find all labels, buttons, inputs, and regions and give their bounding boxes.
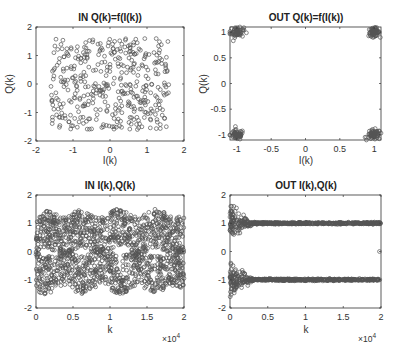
x-tick-label: 1.5 (337, 312, 350, 322)
y-axis-label: Q(k) (4, 74, 15, 93)
panel-in-timeseries: IN I(k),Q(k) 00.511.52 -2-1012 k ×104 (24, 180, 187, 344)
y-tick-label: -0.5 (210, 104, 226, 114)
x-axis-label: k (108, 324, 114, 335)
x-tick-label: -1 (69, 145, 77, 155)
y-tick-label: 1 (27, 218, 32, 228)
y-tick-label: 2 (27, 190, 32, 200)
y-axis-label: Q(k) (198, 74, 209, 93)
x-tick-label: -0.5 (263, 144, 279, 154)
y-tick-label: 0 (27, 79, 32, 89)
y-tick-label: -2 (24, 136, 32, 146)
x-tick-label: 2 (378, 312, 383, 322)
chart-title: OUT I(k),Q(k) (275, 180, 337, 191)
x-tick-label: 1 (144, 145, 149, 155)
x-axis-exponent: ×104 (358, 332, 376, 344)
x-tick-label: 1 (107, 312, 112, 322)
x-axis-exponent: ×104 (162, 332, 180, 344)
y-tick-label: 0.5 (213, 53, 226, 63)
x-tick-label: 0.5 (261, 312, 274, 322)
x-tick-label: 0 (33, 312, 38, 322)
panel-out-timeseries: OUT I(k),Q(k) 00.511.52 -2-1012 k ×104 (218, 180, 384, 344)
x-tick-label: -2 (32, 145, 40, 155)
x-axis-label: k (304, 324, 310, 335)
y-tick-label: 1 (27, 51, 32, 61)
y-tick-label: 2 (221, 190, 226, 200)
x-tick-label: 1 (372, 144, 377, 154)
axes-box (230, 27, 381, 140)
y-tick-label: -2 (24, 303, 32, 313)
figure: IN Q(k)=f(I(k)) -2-1012 -2-1012 I(k) Q(k… (0, 0, 394, 353)
x-axis-label: I(k) (103, 155, 117, 166)
y-tick-label: -2 (218, 303, 226, 313)
x-tick-label: 0 (227, 312, 232, 322)
x-axis-label: I(k) (299, 155, 313, 166)
x-tick-label: 1.5 (141, 312, 154, 322)
x-tick-label: 0 (303, 144, 308, 154)
y-tick-label: 0 (221, 247, 226, 257)
y-tick-label: -1 (24, 108, 32, 118)
x-tick-label: 0.5 (334, 144, 347, 154)
panel-out-constellation: OUT Q(k)=f(I(k)) -1-0.500.51 -1-0.500.51… (198, 12, 383, 166)
x-tick-label: 0.5 (67, 312, 80, 322)
x-tick-label: -1 (233, 144, 241, 154)
x-tick-label: 0 (107, 145, 112, 155)
x-tick-label: 2 (181, 145, 186, 155)
y-tick-label: 0 (221, 79, 226, 89)
x-tick-label: 1 (303, 312, 308, 322)
y-tick-label: -1 (24, 275, 32, 285)
x-tick-label: 2 (181, 312, 186, 322)
chart-title: IN I(k),Q(k) (85, 180, 136, 191)
y-tick-label: 1 (221, 218, 226, 228)
y-tick-label: -1 (218, 130, 226, 140)
y-tick-label: 0 (27, 247, 32, 257)
chart-title: OUT Q(k)=f(I(k)) (269, 12, 344, 23)
y-tick-label: 2 (27, 22, 32, 32)
panel-in-constellation: IN Q(k)=f(I(k)) -2-1012 -2-1012 I(k) Q(k… (4, 12, 187, 166)
y-tick-label: -1 (218, 275, 226, 285)
axes-box (230, 195, 381, 308)
y-tick-label: 1 (221, 27, 226, 37)
chart-title: IN Q(k)=f(I(k)) (78, 12, 142, 23)
